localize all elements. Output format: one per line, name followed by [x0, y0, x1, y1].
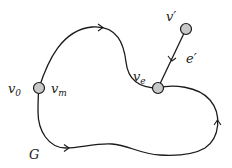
node-v0-vm	[34, 83, 45, 94]
node-v-prime	[181, 24, 192, 35]
label-ve: ve	[133, 69, 146, 86]
label-v-prime: v′	[166, 9, 176, 24]
label-vm: vm	[51, 81, 67, 98]
cycle-right-edge	[158, 86, 218, 155]
cycle-bottom-edge	[38, 88, 160, 155]
label-e-prime: e′	[186, 51, 197, 66]
label-v0: v0	[8, 81, 21, 98]
e-prime-edge	[158, 29, 186, 88]
label-graph-G: G	[29, 147, 39, 162]
node-ve	[153, 83, 164, 94]
graph-diagram: v0 vm ve v′ e′ G	[0, 0, 232, 168]
